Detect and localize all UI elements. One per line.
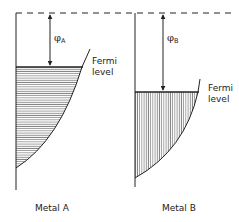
energy-band-diagram: φA Fermi level Metal A φB Fermi level Me… — [0, 0, 239, 222]
metal-b-group: φB Fermi level Metal B — [135, 13, 233, 213]
metal-a-filled-states — [16, 67, 82, 168]
metal-a-name: Metal A — [35, 203, 70, 213]
metal-b-fermi-label-line1: Fermi — [208, 83, 233, 93]
metal-a-fermi-label-line2: level — [92, 67, 113, 77]
metal-b-fermi-label-line2: level — [208, 94, 229, 104]
metal-b-work-function-label: φB — [167, 32, 178, 45]
metal-a-fermi-label-line1: Fermi — [92, 56, 117, 66]
metal-a-work-function-label: φA — [54, 32, 66, 45]
metal-b-name: Metal B — [162, 203, 196, 213]
metal-a-group: φA Fermi level Metal A — [16, 13, 117, 213]
metal-b-filled-states — [135, 92, 198, 178]
